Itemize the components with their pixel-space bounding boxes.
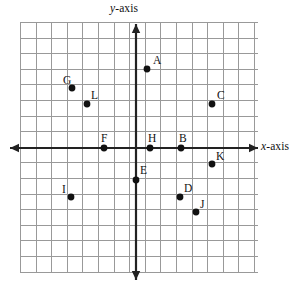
point-label: L xyxy=(91,90,98,102)
point-label: K xyxy=(216,151,224,163)
point-label: C xyxy=(217,90,225,102)
plotted-point xyxy=(101,145,108,152)
x-axis-label: x-axis xyxy=(261,140,289,152)
plotted-point xyxy=(68,194,75,201)
point-label: D xyxy=(184,183,192,195)
point-label: G xyxy=(63,75,71,87)
plotted-point xyxy=(178,145,185,152)
plotted-point xyxy=(209,101,216,108)
point-label: H xyxy=(148,133,156,145)
plotted-point xyxy=(84,101,91,108)
point-label: B xyxy=(179,133,187,145)
plotted-point xyxy=(177,194,184,201)
y-axis-arrow-down xyxy=(132,271,140,280)
y-axis-arrow-up xyxy=(132,24,140,33)
plotted-point xyxy=(144,66,151,73)
x-axis-label-suffix: -axis xyxy=(266,140,289,152)
plotted-point xyxy=(209,161,216,168)
plotted-point xyxy=(133,177,140,184)
plotted-point xyxy=(193,209,200,216)
y-axis-label: y-axis xyxy=(110,2,138,14)
point-label: E xyxy=(140,165,147,177)
plotted-point xyxy=(147,145,154,152)
plot-canvas xyxy=(0,0,300,292)
point-label: I xyxy=(62,184,66,196)
point-label: A xyxy=(153,55,161,67)
coordinate-plane-figure: y-axis x-axis ABCDEFGHIJKL xyxy=(0,0,300,292)
data-point-markers xyxy=(68,66,216,216)
x-axis-arrow-right xyxy=(249,144,258,152)
y-axis-label-suffix: -axis xyxy=(115,2,138,14)
point-label: J xyxy=(200,199,204,211)
x-axis-arrow-left xyxy=(10,144,19,152)
point-label: F xyxy=(101,133,107,145)
